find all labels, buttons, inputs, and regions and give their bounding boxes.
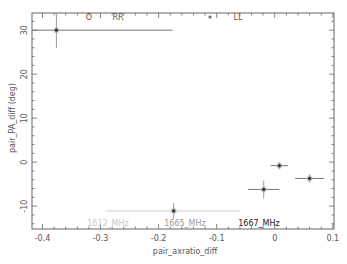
- plot-border: [32, 13, 334, 229]
- y-tick-label: 0: [20, 160, 29, 165]
- data-point: [271, 162, 288, 169]
- data-point: [107, 203, 241, 219]
- x-axis-label: pair_axratio_diff: [153, 247, 218, 256]
- rr-marker-symbol: O: [86, 13, 92, 22]
- legend-1665-mhz: 1665_MHz: [164, 219, 205, 228]
- x-tick-label: -0.2: [151, 234, 167, 243]
- y-tick-label: 20: [20, 69, 29, 79]
- plot-frame: [32, 13, 334, 229]
- y-tick-label: -10: [20, 200, 29, 213]
- data-point: [295, 174, 324, 183]
- y-tick-label: 10: [20, 113, 29, 123]
- x-tick-label: 0: [272, 234, 277, 243]
- ll-label: LL: [234, 13, 243, 22]
- y-tick-label: 30: [20, 25, 29, 35]
- data-points: [32, 13, 324, 219]
- ll-marker-symbol: *: [208, 15, 212, 24]
- x-tick-label: -0.1: [209, 234, 225, 243]
- axis-ticks: -0.4-0.3-0.2-0.100.1-100102030: [20, 13, 339, 243]
- x-tick-label: -0.4: [35, 234, 51, 243]
- rr-label: RR: [112, 13, 124, 22]
- y-axis-label: pair_PA_diff (deg): [8, 83, 17, 153]
- x-tick-label: -0.3: [93, 234, 109, 243]
- scatter-chart: -0.4-0.3-0.2-0.100.1-100102030 O RR * LL…: [0, 0, 347, 264]
- data-point: [32, 13, 173, 48]
- x-tick-label: 0.1: [326, 234, 339, 243]
- legend-1667-mhz: 1667_MHz: [238, 219, 279, 228]
- legend-1612-mhz: 1612_MHz: [87, 219, 128, 228]
- data-point: [248, 181, 279, 199]
